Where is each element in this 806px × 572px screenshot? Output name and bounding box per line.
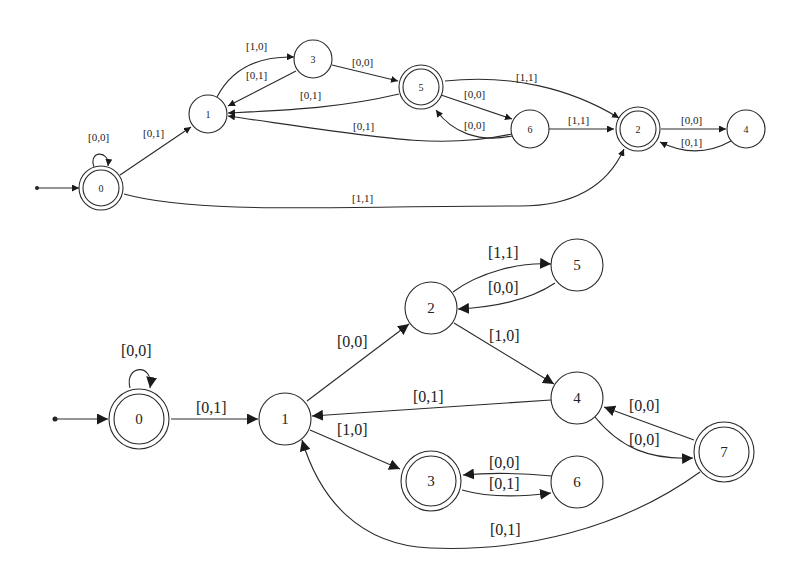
svg-text:6: 6 [528,124,533,135]
state-6: 6 [511,110,549,148]
edge-label: [1,0] [246,40,267,52]
edge-label: [0,1] [246,69,267,81]
state-0: 0 [79,166,123,210]
edge-label: [0,0] [488,279,519,296]
bottom-automaton: [0,0] [0,1] [0,0] [1,0] [1,1] [0,0] [1,0… [53,239,755,548]
state-3: 3 [401,451,461,511]
edge-label: [1,1] [568,114,589,126]
svg-text:1: 1 [206,109,211,120]
state-0: 0 [109,389,169,449]
state-4: 4 [551,372,603,424]
edge-label: [0,0] [629,397,660,414]
edge-label: [0,0] [629,431,660,448]
svg-text:4: 4 [573,390,581,406]
svg-text:0: 0 [99,183,104,194]
edge-label: [1,1] [488,244,519,261]
svg-text:5: 5 [419,82,424,93]
state-5: 5 [551,239,603,291]
svg-text:4: 4 [744,124,749,135]
edge-label: [0,1] [196,399,227,416]
edge-label: [0,0] [681,114,702,126]
svg-text:5: 5 [573,257,581,273]
edge-label: [0,1] [490,521,521,538]
svg-text:3: 3 [427,473,435,489]
state-3: 3 [294,40,332,78]
state-1: 1 [259,393,311,445]
edge-0-2 [124,149,624,208]
edge-label: [1,1] [352,192,373,204]
state-5: 5 [399,65,443,109]
svg-text:2: 2 [636,124,641,135]
state-4: 4 [727,110,765,148]
edge-label: [0,0] [337,333,368,350]
edge-label: [0,0] [464,119,485,131]
svg-text:7: 7 [720,444,728,460]
top-automaton: [0,0] [0,1] [1,1] [1,0] [0,1] [0,0] [0,1… [35,40,765,210]
automata-figure: [0,0] [0,1] [1,1] [1,0] [0,1] [0,0] [0,1… [0,0,806,572]
edge-label: [0,0] [88,131,109,143]
edge-label: [0,1] [489,475,520,492]
state-2: 2 [405,282,457,334]
state-1: 1 [189,95,227,133]
edge-label: [0,1] [413,388,444,405]
svg-text:1: 1 [281,411,289,427]
svg-text:3: 3 [311,54,316,65]
svg-text:2: 2 [427,300,435,316]
state-2: 2 [616,107,660,151]
edge-label: [0,0] [121,342,152,359]
edge-label: [0,0] [464,88,485,100]
state-7: 7 [694,422,754,482]
edge-label: [0,0] [489,454,520,471]
svg-text:0: 0 [135,411,143,427]
edge-0-0 [93,154,108,167]
edge-label: [0,1] [681,136,702,148]
edge-label: [0,0] [352,56,373,68]
edge-label: [1,1] [516,71,537,83]
edge-label: [0,1] [143,127,164,139]
edge-label: [1,0] [337,421,368,438]
edge-0-0 [129,370,150,388]
edge-label: [0,1] [353,120,374,132]
svg-text:6: 6 [573,474,581,490]
edge-label: [1,0] [489,327,520,344]
edge-label: [0,1] [300,89,321,101]
state-6: 6 [551,456,603,508]
